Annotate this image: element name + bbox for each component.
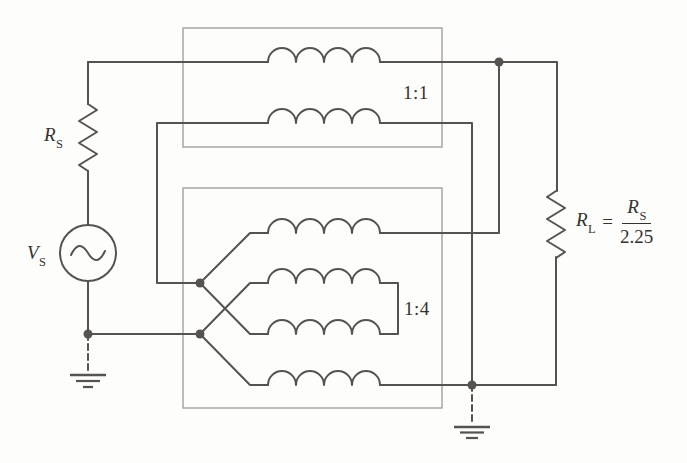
junction-dot-upper — [196, 279, 205, 288]
junction-dot-top — [495, 58, 504, 67]
inductor-1to4-winding1 — [268, 219, 380, 233]
resistor-load — [547, 191, 565, 258]
wire-w4-left — [200, 334, 268, 385]
junction-dot-lower — [196, 330, 205, 339]
load-fraction-denominator: 2.25 — [620, 224, 653, 246]
junction-dot-source — [84, 330, 93, 339]
ground-icon-right — [454, 385, 490, 438]
wire-w1-left — [200, 233, 268, 283]
wire-w2-w3-link — [380, 283, 398, 334]
source-resistance-label: RS — [44, 125, 63, 148]
source-voltage-label: VS — [27, 243, 46, 266]
rl-num-subscript: S — [639, 209, 646, 223]
rs-symbol: R — [44, 124, 56, 145]
ground-icon-left — [70, 334, 106, 387]
ac-source-icon — [60, 225, 116, 281]
load-resistance-label: RL = RS 2.25 — [576, 197, 653, 246]
rs-subscript: S — [56, 137, 63, 151]
vs-subscript: S — [39, 255, 46, 269]
turns-ratio-1to1-label: 1:1 — [403, 83, 429, 102]
inductor-1to1-secondary — [268, 109, 380, 123]
wire-w3-left — [200, 283, 268, 334]
rl-num-symbol: R — [627, 196, 639, 217]
inductor-1to4-winding2 — [268, 269, 380, 283]
load-fraction-numerator: RS — [622, 197, 651, 224]
rl-subscript: L — [588, 222, 596, 236]
circuit-diagram: RS VS 1:1 1:4 RL = RS 2.25 — [0, 0, 687, 463]
wire-w2-left — [200, 283, 268, 334]
inductor-1to4-winding3 — [268, 320, 380, 334]
turns-ratio-1to4-label: 1:4 — [404, 299, 430, 318]
inductor-1to1-primary — [268, 48, 380, 62]
rl-symbol-group: RL — [576, 210, 595, 233]
equals-sign: = — [602, 212, 613, 231]
load-fraction: RS 2.25 — [620, 197, 653, 246]
junction-dot-bottom — [468, 381, 477, 390]
resistor-source — [79, 104, 97, 171]
vs-symbol: V — [27, 242, 39, 263]
inductor-1to4-winding4 — [268, 371, 380, 385]
rl-symbol: R — [576, 209, 588, 230]
wire-1to1-secondary-right — [380, 123, 472, 385]
